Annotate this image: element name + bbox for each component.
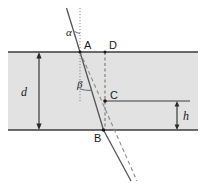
label-beta: β [76,78,83,90]
point-marker-d [104,51,107,54]
alpha-angle-arc [75,32,80,34]
refraction-diagram-svg: α β A D C B d h [0,0,206,189]
point-marker-a [79,51,82,54]
label-offset-h: h [183,109,189,123]
point-marker-b [102,128,106,132]
label-thickness-d: d [21,85,28,99]
glass-slab-fill [8,52,198,130]
label-alpha: α [66,26,72,38]
point-marker-c [103,99,107,103]
label-point-c: C [110,89,118,101]
label-point-b: B [94,132,101,144]
refraction-diagram: α β A D C B d h [0,0,206,189]
label-point-d: D [109,39,117,51]
label-point-a: A [84,39,92,51]
